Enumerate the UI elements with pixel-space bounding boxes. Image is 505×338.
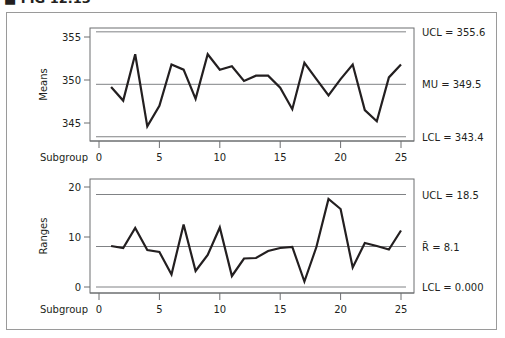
- x-tick-label: 25: [395, 152, 408, 163]
- y-tick-label: 0: [75, 282, 81, 293]
- x-tick-label: 0: [96, 152, 102, 163]
- data-series-line: [111, 54, 401, 126]
- x-tick-label: 0: [96, 304, 102, 315]
- control-charts: UCL = 355.6MU = 349.5LCL = 343.434535035…: [0, 0, 505, 338]
- reference-label-mu: MU = 349.5: [422, 79, 481, 90]
- x-tick-label: 10: [213, 152, 226, 163]
- x-tick-label: 15: [274, 152, 287, 163]
- x-tick-label: 20: [334, 304, 347, 315]
- x-tick-label: 15: [274, 304, 287, 315]
- x-axis-label: Subgroup: [40, 304, 88, 315]
- reference-label-lcl: LCL = 0.000: [422, 282, 484, 293]
- x-tick-label: 5: [156, 152, 162, 163]
- data-series-line: [111, 199, 401, 282]
- y-axis-label: Ranges: [38, 218, 49, 255]
- y-tick-label: 355: [62, 32, 81, 43]
- reference-label-ucl: UCL = 355.6: [422, 27, 485, 38]
- x-tick-label: 10: [213, 304, 226, 315]
- y-tick-label: 350: [62, 75, 81, 86]
- x-tick-label: 25: [395, 304, 408, 315]
- y-tick-label: 345: [62, 118, 81, 129]
- y-axis-label: Means: [38, 68, 49, 100]
- reference-label-rbar: R̄ = 8.1: [422, 241, 460, 253]
- x-tick-label: 5: [156, 304, 162, 315]
- reference-label-lcl: LCL = 343.4: [422, 132, 484, 143]
- x-tick-label: 20: [334, 152, 347, 163]
- y-tick-label: 10: [68, 232, 81, 243]
- y-tick-label: 20: [68, 182, 81, 193]
- x-axis-label: Subgroup: [40, 152, 88, 163]
- reference-label-ucl: UCL = 18.5: [422, 190, 479, 201]
